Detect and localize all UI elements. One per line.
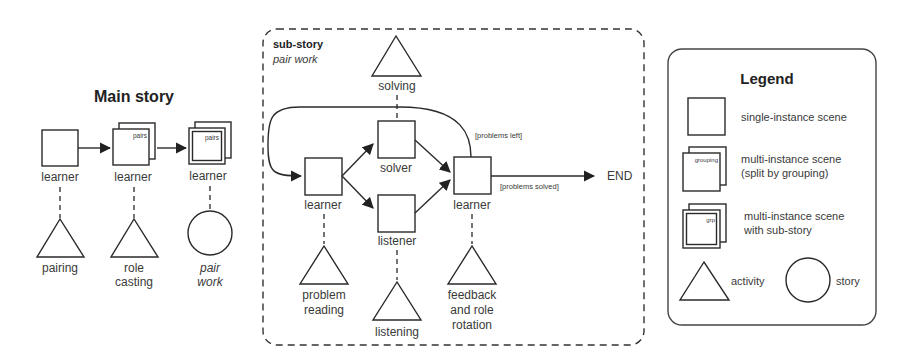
legend-label: activity [731,275,765,287]
legend-label-line1: multi-instance scene [741,153,841,165]
scene-role-label: learner [304,198,341,212]
scene-role-label: solver [380,161,412,175]
legend: Legend single-instance scene grouping mu… [668,49,876,325]
legend-title: Legend [740,70,793,87]
grouping-tag: pairs [133,132,148,140]
scene-role-label: learner [41,170,78,184]
activity-triangle-icon [372,36,421,76]
arrow-to-listener [342,176,373,208]
scene-role-label: learner [114,170,151,184]
arrow-listener-to-learner [415,180,450,213]
activity-label: pairing [42,261,78,275]
single-instance-scene-icon [42,130,78,166]
activity-label-line2: reading [304,303,344,317]
legend-label-line2: with sub-story [743,224,812,236]
scene-learner-start [305,158,342,195]
main-scene-3: pairs learner pair work [188,122,232,289]
end-label: END [607,169,633,183]
grouping-tag: pairs [205,134,220,142]
scene-listener [378,195,415,232]
activity-label-line1: problem [302,288,345,302]
legend-label: single-instance scene [741,111,847,123]
activity-triangle-icon [448,246,496,284]
story-label-line1: pair [199,261,221,275]
legend-single-instance-icon [688,98,725,135]
legend-label: story [836,275,860,287]
activity-triangle-icon [111,219,158,257]
activity-triangle-icon [37,219,84,257]
activity-triangle-icon [373,282,421,320]
activity-label-line1: role [124,261,144,275]
main-story-title: Main story [94,88,174,105]
legend-label-line2: (split by grouping) [741,167,828,179]
sub-story-subtitle: pair work [272,53,318,65]
legend-grp-tag: grp [706,217,715,223]
sub-story: sub-story pair work solving [problems le… [263,29,644,345]
activity-triangle-icon [300,246,348,284]
arrow-solver-to-learner [415,140,450,172]
activity-label-line1: feedback [448,288,498,302]
scene-role-label: learner [189,169,226,183]
main-scene-2: pairs learner role casting [111,123,158,289]
main-story: Main story learner pairing pairs learner… [37,88,232,289]
scene-learner-end [454,157,491,194]
condition-problems-left: [problems left] [475,131,522,140]
main-scene-1: learner pairing [37,130,84,275]
scene-role-label: learner [453,198,490,212]
activity-label-line3: rotation [452,318,492,332]
loop-back-arrow [268,107,471,176]
story-circle-icon [188,211,232,255]
activity-label-line2: casting [115,275,153,289]
scene-solver [378,121,415,158]
story-label-line2: work [197,275,223,289]
legend-story-circle-icon [786,258,830,302]
activity-label-solving: solving [378,79,415,93]
arrow-to-solver [342,144,373,176]
legend-grouping-tag: grouping [695,157,718,163]
scene-role-label: listener [378,234,417,248]
sub-story-title: sub-story [273,38,324,50]
activity-label-listening: listening [375,325,419,339]
legend-label-line1: multi-instance scene [744,210,844,222]
activity-label-line2: and role [450,303,494,317]
condition-problems-solved: [problems solved] [500,182,559,191]
diagram-canvas: Main story learner pairing pairs learner… [0,0,910,362]
